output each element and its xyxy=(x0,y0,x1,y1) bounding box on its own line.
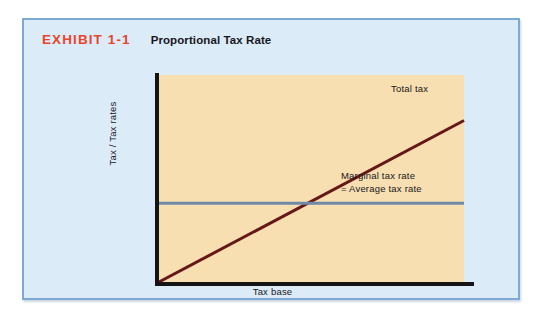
y-axis-label: Tax / Tax rates xyxy=(107,69,118,199)
plot-area: Total tax Marginal tax rate = Average ta… xyxy=(159,75,464,282)
x-axis-label: Tax base xyxy=(109,286,436,297)
marginal-rate-line-1: Marginal tax rate xyxy=(341,170,422,183)
chart-figure: Tax / Tax rates Total tax Marginal tax r… xyxy=(109,50,509,295)
exhibit-title: Proportional Tax Rate xyxy=(151,34,272,46)
exhibit-header: EXHIBIT 1-1 Proportional Tax Rate xyxy=(42,32,271,47)
marginal-rate-line-2: = Average tax rate xyxy=(341,183,422,196)
total-tax-label: Total tax xyxy=(391,83,428,96)
marginal-average-rate-label: Marginal tax rate = Average tax rate xyxy=(341,170,422,195)
exhibit-number: EXHIBIT 1-1 xyxy=(42,32,131,47)
exhibit-card: EXHIBIT 1-1 Proportional Tax Rate Tax / … xyxy=(22,18,520,300)
total-tax-line xyxy=(159,121,464,282)
y-axis-line xyxy=(155,73,159,286)
